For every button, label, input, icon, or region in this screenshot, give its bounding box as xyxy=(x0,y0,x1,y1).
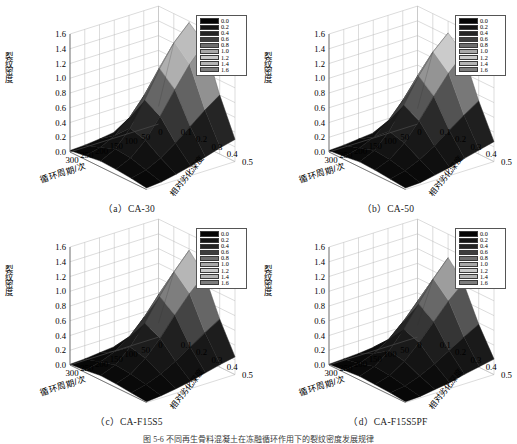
svg-text:50: 50 xyxy=(141,132,150,142)
legend-row: 1.6 xyxy=(459,280,503,286)
svg-text:0.6: 0.6 xyxy=(314,316,325,326)
svg-text:0.3: 0.3 xyxy=(211,355,223,365)
svg-text:0.3: 0.3 xyxy=(470,355,482,365)
svg-text:1.4: 1.4 xyxy=(55,257,66,267)
y-axis-label-b: 裂纹密度 xyxy=(261,52,273,82)
legend-swatch xyxy=(459,231,478,236)
svg-text:100: 100 xyxy=(124,349,138,359)
legend-swatch xyxy=(200,18,219,23)
svg-text:0.2: 0.2 xyxy=(314,132,325,142)
svg-text:0: 0 xyxy=(417,340,422,350)
legend-swatch xyxy=(200,43,219,48)
legend-swatch xyxy=(200,231,219,236)
svg-text:1.2: 1.2 xyxy=(314,272,325,282)
colorbar-legend-c: 0.00.20.40.60.81.01.21.41.6 xyxy=(196,228,247,289)
subplot-panel-d: 1.61.41.21.00.80.60.40.20.03002502001501… xyxy=(259,213,517,428)
subplot-caption-c: （c）CA-F15S5 xyxy=(0,414,258,428)
svg-text:0.2: 0.2 xyxy=(455,347,466,357)
svg-text:0.5: 0.5 xyxy=(501,370,513,380)
legend-row: 1.6 xyxy=(459,67,503,73)
svg-text:200: 200 xyxy=(354,146,368,156)
legend-swatch xyxy=(459,67,478,72)
svg-text:200: 200 xyxy=(95,359,109,369)
legend-swatch xyxy=(200,49,219,54)
svg-text:0.4: 0.4 xyxy=(486,149,498,159)
svg-text:0.0: 0.0 xyxy=(314,147,325,157)
colorbar-legend-d: 0.00.20.40.60.81.01.21.41.6 xyxy=(455,228,506,289)
svg-text:1.6: 1.6 xyxy=(314,29,325,39)
svg-text:0.1: 0.1 xyxy=(440,340,451,350)
svg-text:0.6: 0.6 xyxy=(314,103,325,113)
legend-swatch xyxy=(200,256,219,261)
subplot-caption-d: （d）CA-F15S5PF xyxy=(259,414,517,428)
svg-text:0.2: 0.2 xyxy=(55,345,66,355)
legend-value: 1.6 xyxy=(480,67,488,73)
svg-text:0.8: 0.8 xyxy=(55,301,66,311)
legend-swatch xyxy=(200,238,219,243)
svg-text:100: 100 xyxy=(383,136,397,146)
legend-swatch xyxy=(200,37,219,42)
y-axis-label-d: 裂纹密度 xyxy=(261,265,273,295)
legend-value: 1.6 xyxy=(221,280,229,286)
svg-text:50: 50 xyxy=(400,345,409,355)
svg-text:0.3: 0.3 xyxy=(470,142,482,152)
svg-text:1.2: 1.2 xyxy=(314,59,325,69)
legend-swatch xyxy=(200,67,219,72)
svg-text:0.1: 0.1 xyxy=(181,127,192,137)
svg-text:0.1: 0.1 xyxy=(440,127,451,137)
svg-text:0.4: 0.4 xyxy=(314,331,325,341)
svg-text:0.4: 0.4 xyxy=(227,149,239,159)
svg-text:0.5: 0.5 xyxy=(242,370,254,380)
legend-swatch xyxy=(200,31,219,36)
svg-text:200: 200 xyxy=(354,359,368,369)
legend-swatch xyxy=(200,274,219,279)
svg-text:200: 200 xyxy=(95,146,109,156)
svg-text:150: 150 xyxy=(369,354,383,364)
svg-text:0.4: 0.4 xyxy=(314,118,325,128)
svg-text:0.8: 0.8 xyxy=(314,301,325,311)
svg-text:1.4: 1.4 xyxy=(314,257,325,267)
plot-area-c: 1.61.41.21.00.80.60.40.20.03002502001501… xyxy=(0,213,258,409)
svg-text:1.6: 1.6 xyxy=(55,242,66,252)
legend-swatch xyxy=(200,268,219,273)
svg-text:0.2: 0.2 xyxy=(314,345,325,355)
legend-swatch xyxy=(459,37,478,42)
legend-swatch xyxy=(459,31,478,36)
svg-text:100: 100 xyxy=(124,136,138,146)
svg-text:0.4: 0.4 xyxy=(55,118,66,128)
svg-text:0.8: 0.8 xyxy=(55,88,66,98)
svg-text:0.5: 0.5 xyxy=(501,157,513,167)
svg-text:0.2: 0.2 xyxy=(55,132,66,142)
svg-text:1.0: 1.0 xyxy=(314,286,325,296)
svg-text:0.6: 0.6 xyxy=(55,103,66,113)
colorbar-legend-b: 0.00.20.40.60.81.01.21.41.6 xyxy=(455,15,506,76)
legend-value: 1.6 xyxy=(480,280,488,286)
legend-swatch xyxy=(459,280,478,285)
colorbar-legend-a: 0.00.20.40.60.81.01.21.41.6 xyxy=(196,15,247,76)
legend-row: 1.6 xyxy=(200,280,244,286)
legend-swatch xyxy=(200,250,219,255)
svg-text:0: 0 xyxy=(158,340,163,350)
svg-text:0.4: 0.4 xyxy=(55,331,66,341)
legend-swatch xyxy=(459,55,478,60)
svg-text:0.0: 0.0 xyxy=(55,147,66,157)
svg-text:1.2: 1.2 xyxy=(55,272,66,282)
legend-swatch xyxy=(459,250,478,255)
svg-text:1.2: 1.2 xyxy=(55,59,66,69)
svg-text:0.6: 0.6 xyxy=(55,316,66,326)
svg-text:0.4: 0.4 xyxy=(486,362,498,372)
plot-area-d: 1.61.41.21.00.80.60.40.20.03002502001501… xyxy=(259,213,517,409)
svg-text:1.0: 1.0 xyxy=(314,73,325,83)
legend-swatch xyxy=(459,268,478,273)
legend-swatch xyxy=(459,274,478,279)
svg-text:0.2: 0.2 xyxy=(196,347,207,357)
svg-text:1.4: 1.4 xyxy=(314,44,325,54)
svg-text:0.0: 0.0 xyxy=(314,360,325,370)
svg-text:0.3: 0.3 xyxy=(211,142,223,152)
svg-text:1.6: 1.6 xyxy=(55,29,66,39)
legend-value: 1.6 xyxy=(221,67,229,73)
y-axis-label-c: 裂纹密度 xyxy=(2,265,14,295)
legend-swatch xyxy=(459,61,478,66)
svg-text:100: 100 xyxy=(383,349,397,359)
